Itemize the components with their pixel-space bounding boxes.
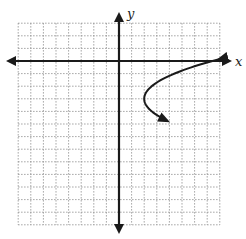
x-axis-left-arrow-icon [6, 56, 16, 66]
x-axis-label: x [235, 54, 243, 69]
y-axis-up-arrow-icon [114, 12, 124, 22]
coordinate-plane: x y [0, 0, 246, 239]
x-axis-right-arrow-icon [222, 56, 232, 66]
y-axis-down-arrow-icon [114, 224, 124, 234]
y-axis-label: y [126, 6, 135, 21]
